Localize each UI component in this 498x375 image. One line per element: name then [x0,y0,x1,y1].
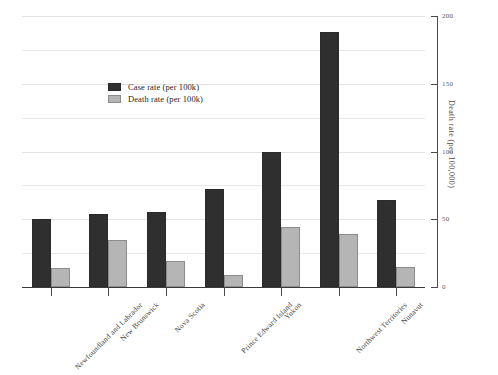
bar-death-rate [396,267,415,287]
y-axis-tick-label: 50 [442,215,450,223]
bar-case-rate [377,200,396,287]
x-axis-category-label: Northwest Territories [355,301,410,356]
y-axis-tick [431,16,437,17]
x-axis-tick [166,288,167,296]
x-axis-category-label: Newfoundland and Labrador [74,301,145,372]
x-axis-category-label: Nova Scotia [173,301,207,335]
y-axis-tick [431,84,437,85]
bars-layer [22,16,425,287]
y-axis-tick-label: 200 [442,12,453,20]
bar-death-rate [51,268,70,287]
x-axis-tick [108,288,109,296]
bar-group [377,16,415,287]
bar-death-rate [166,261,185,287]
legend-item-label: Case rate (per 100k) [128,82,199,92]
legend-swatch-case-icon [108,83,121,91]
bar-case-rate [89,214,108,287]
bar-case-rate [32,219,51,287]
right-axis-title: Death rate (per 100,000) [447,100,456,188]
chart-legend: Case rate (per 100k)Death rate (per 100k… [108,81,203,105]
bar-group [262,16,300,287]
x-axis-tick [396,288,397,296]
y-axis-tick [431,287,437,288]
bar-group [32,16,70,287]
y-axis-tick [431,219,437,220]
y-axis-tick-label: 100 [442,148,453,156]
x-axis-tick [51,288,52,296]
bar-case-rate [205,189,224,287]
legend-swatch-death-icon [108,95,121,103]
legend-item: Case rate (per 100k) [108,81,203,92]
bar-chart: Death rate (per 100,000) Case rate (per … [0,0,498,375]
bar-group [320,16,358,287]
bar-death-rate [224,275,243,287]
bar-case-rate [320,32,339,287]
legend-item-label: Death rate (per 100k) [128,94,203,104]
y-axis-tick [431,152,437,153]
bar-death-rate [339,234,358,287]
bar-death-rate [108,240,127,287]
x-axis-tick [224,288,225,296]
right-axis-line [437,16,438,288]
legend-item: Death rate (per 100k) [108,93,203,104]
bar-group [205,16,243,287]
y-axis-tick-label: 0 [442,283,446,291]
bar-death-rate [281,227,300,287]
x-axis-tick [281,288,282,296]
bar-group [89,16,127,287]
y-axis-tick-label: 150 [442,80,453,88]
x-axis-tick [339,288,340,296]
bar-case-rate [262,152,281,288]
bar-group [147,16,185,287]
bar-case-rate [147,212,166,287]
